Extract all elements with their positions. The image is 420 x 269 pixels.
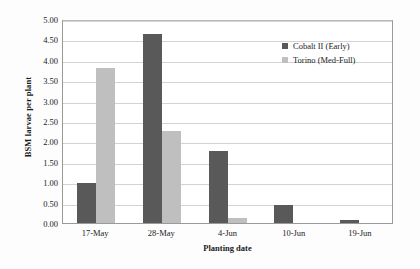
bar-group: [63, 21, 129, 223]
chart-figure: BSM larvae per plant 0.000.501.001.502.0…: [0, 0, 420, 269]
bar-group: [195, 21, 261, 223]
y-axis-tick-label: 4.00: [43, 56, 58, 66]
y-axis-tick-label: 2.00: [43, 137, 58, 147]
legend-item[interactable]: Cobalt II (Early): [282, 41, 355, 51]
x-axis-tick-label: 17-May: [62, 228, 128, 238]
legend-label: Cobalt II (Early): [293, 41, 350, 51]
bar[interactable]: [162, 131, 181, 223]
y-axis-tick-label: 3.50: [43, 76, 58, 86]
y-axis-tick-labels: 0.000.501.001.502.002.503.003.504.004.50…: [20, 20, 58, 224]
legend-swatch-icon: [282, 43, 288, 49]
y-axis-tick-label: 1.00: [43, 178, 58, 188]
x-axis-title: Planting date: [62, 243, 393, 253]
bar[interactable]: [340, 220, 359, 223]
bar[interactable]: [209, 151, 228, 223]
y-axis-tick-label: 3.00: [43, 97, 58, 107]
x-axis-tick-labels: 17-May28-May4-Jun10-Jun19-Jun: [62, 228, 393, 238]
bar-group: [129, 21, 195, 223]
bar[interactable]: [228, 218, 247, 223]
legend-swatch-icon: [282, 57, 288, 63]
x-axis-tick-label: 10-Jun: [261, 228, 327, 238]
y-axis-tick-label: 0.50: [43, 199, 58, 209]
bar[interactable]: [77, 183, 96, 223]
x-axis-tick-label: 4-Jun: [194, 228, 260, 238]
bar[interactable]: [96, 68, 115, 223]
x-axis-tick-label: 19-Jun: [327, 228, 393, 238]
bar[interactable]: [143, 34, 162, 223]
y-axis-tick-label: 4.50: [43, 35, 58, 45]
y-axis-tick-label: 0.00: [43, 219, 58, 229]
bar[interactable]: [274, 205, 293, 223]
y-axis-tick-label: 1.50: [43, 158, 58, 168]
y-axis-tick-label: 5.00: [43, 15, 58, 25]
legend-label: Torino (Med-Full): [293, 55, 355, 65]
y-axis-tick-label: 2.50: [43, 117, 58, 127]
x-axis-tick-label: 28-May: [128, 228, 194, 238]
legend: Cobalt II (Early)Torino (Med-Full): [282, 41, 355, 69]
legend-item[interactable]: Torino (Med-Full): [282, 55, 355, 65]
